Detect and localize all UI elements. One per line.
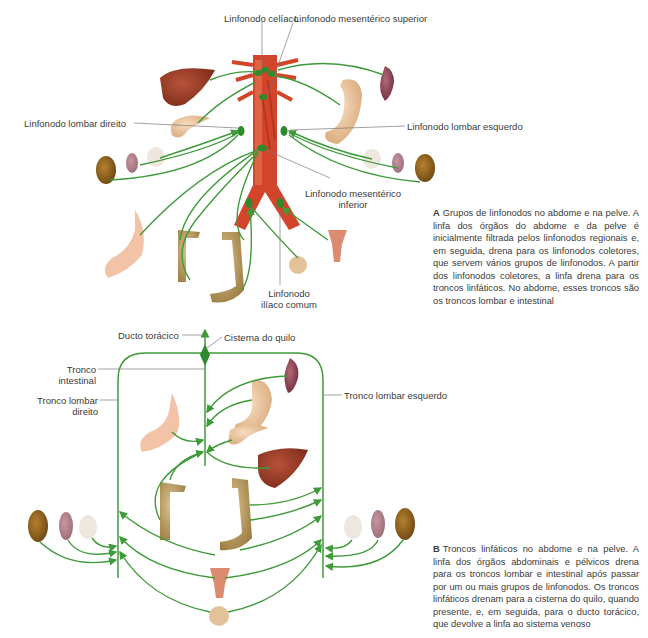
- adrenal-left-icon: [392, 153, 404, 173]
- stomach-icon: [325, 79, 362, 144]
- kidney-left-icon: [415, 154, 435, 182]
- bladder-b-left-icon: [344, 515, 362, 539]
- label-left-lumbar-node: Linfonodo lombar esquerdo: [407, 121, 523, 132]
- adrenal-b-right-icon: [59, 512, 73, 540]
- colon-b-right-icon: [160, 482, 186, 540]
- caption-a-text: Grupos de linfonodos no abdome e na pelv…: [433, 208, 639, 306]
- kidney-b-right-icon: [28, 510, 48, 542]
- label-thoracic-duct: Ducto torácico: [118, 330, 179, 341]
- label-celiac-node: Linfonodo celíaco: [224, 13, 298, 24]
- label-cisterna-chyli: Cisterna do quilo: [224, 332, 295, 343]
- adrenal-right-icon: [126, 153, 138, 173]
- caption-a: AGrupos de linfonodos no abdome e na pel…: [433, 207, 639, 307]
- caption-a-letter: A: [433, 208, 440, 218]
- caption-b: BTroncos linfáticos no abdome e na pelve…: [433, 543, 639, 631]
- label-inferior-mesenteric-node: Linfonodo mesentérico inferior: [300, 188, 406, 210]
- colon-b-left-icon: [220, 478, 252, 550]
- label-superior-mesenteric-node: Linfonodo mesentérico superior: [294, 13, 427, 24]
- label-right-lumbar-node: Linfonodo lombar direito: [24, 118, 126, 129]
- spleen-icon: [380, 66, 394, 101]
- label-left-lumbar-trunk: Tronco lombar esquerdo: [344, 390, 447, 401]
- uterus-b-icon: [210, 568, 230, 598]
- label-intestinal-trunk: Tronco intestinal: [40, 364, 96, 386]
- aorta-icon: [232, 55, 300, 230]
- small-intestine-icon: [105, 210, 144, 278]
- caption-b-letter: B: [433, 544, 440, 554]
- bladder-icon: [289, 256, 307, 274]
- pancreas-b-icon: [228, 424, 268, 444]
- bladder-b-icon: [209, 606, 229, 626]
- liver-icon: [160, 68, 215, 106]
- small-intestine-b-icon: [140, 393, 179, 452]
- label-common-iliac-node: Linfonodo ilíaco comum: [254, 288, 324, 310]
- panel-a-illustration: [96, 22, 435, 303]
- caption-b-text: Troncos linfáticos no abdome e na pelve.…: [433, 544, 639, 629]
- colon-descending-icon: [210, 232, 244, 303]
- label-right-lumbar-trunk: Tronco lombar direito: [20, 395, 98, 417]
- kidney-b-left-icon: [395, 508, 415, 540]
- uterus-icon: [328, 230, 347, 262]
- adrenal-b-left-icon: [371, 510, 385, 538]
- bladder-b-right-icon: [79, 515, 97, 539]
